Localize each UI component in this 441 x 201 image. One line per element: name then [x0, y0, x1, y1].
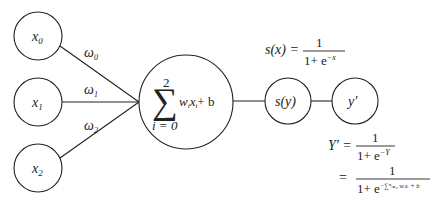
sigmoid-denominator: 1+ e−x: [304, 53, 336, 68]
sum-term: wixi+ b: [179, 94, 214, 110]
edge-x0-sum: [60, 46, 139, 102]
weight-label-w2: ω2: [84, 118, 98, 135]
activation-label: s(y): [275, 94, 296, 110]
output-eq-denominator: 1+ e−Y: [357, 148, 391, 163]
output-eq-line2-numerator: 1: [389, 163, 396, 178]
sigma-symbol: ∑: [152, 81, 178, 121]
sum-lower-limit: i = 0: [152, 118, 178, 133]
sigmoid-lhs: s(x) =: [265, 42, 299, 58]
neuron-diagram: x0 x1 x2 ω0 ω1 ω2 2 ∑ i = 0 wixi+ b s(y)…: [0, 0, 441, 201]
weight-label-w1: ω1: [84, 82, 98, 99]
edge-x2-sum: [60, 102, 139, 158]
weight-label-w0: ω0: [84, 45, 98, 62]
output-eq-line2-denominator: 1+ e−∑ⁿᵢ₌₀ wᵢxᵢ + b: [357, 181, 420, 196]
output-label: y′: [346, 94, 358, 109]
sigmoid-numerator: 1: [316, 35, 323, 50]
output-eq-numerator: 1: [372, 130, 379, 145]
output-eq-line2-equals: =: [339, 170, 347, 185]
output-eq-lhs: Y′ =: [328, 138, 352, 153]
